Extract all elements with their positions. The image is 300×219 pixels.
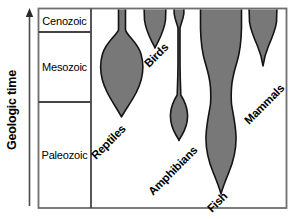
diagram-canvas: Geologic time Cenozoic Mesozoic Paleozoi… — [0, 0, 300, 219]
era-label-mesozoic: Mesozoic — [42, 61, 88, 73]
axis-label-geologic-time: Geologic time — [5, 70, 19, 150]
era-label-paleozoic: Paleozoic — [42, 149, 89, 161]
geologic-time-spindle-diagram: Geologic time Cenozoic Mesozoic Paleozoi… — [0, 0, 300, 219]
era-label-cenozoic: Cenozoic — [42, 15, 87, 27]
